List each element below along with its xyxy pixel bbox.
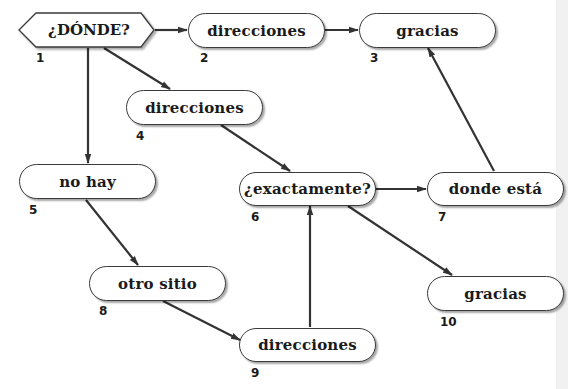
edge-8-9 [163, 301, 240, 340]
node-2-number: 2 [200, 51, 208, 65]
node-4-number: 4 [136, 129, 144, 143]
edge-1-4 [104, 48, 170, 89]
node-3: gracias [359, 13, 496, 48]
node-5-number: 5 [29, 203, 37, 217]
node-10: gracias [427, 276, 564, 311]
flowchart-diagram: ¿DÓNDE? 1 direcciones 2 gracias 3 direcc… [0, 0, 568, 389]
node-10-number: 10 [440, 315, 457, 329]
node-3-number: 3 [370, 51, 378, 65]
node-2: direcciones [188, 13, 325, 48]
node-1-label: ¿DÓNDE? [36, 13, 142, 47]
node-1-number: 1 [36, 51, 44, 65]
node-8: otro sitio [89, 266, 226, 301]
node-9: direcciones [239, 328, 376, 362]
node-9-number: 9 [251, 366, 259, 380]
node-6-number: 6 [251, 210, 259, 224]
node-4: direcciones [126, 90, 263, 125]
edge-6-10 [348, 206, 452, 275]
edge-7-3 [428, 48, 494, 171]
node-7: donde está [427, 172, 564, 206]
node-8-number: 8 [99, 304, 107, 318]
node-5: no hay [19, 164, 156, 199]
edge-4-6 [221, 125, 290, 171]
node-6: ¿exactamente? [239, 172, 376, 206]
node-7-number: 7 [438, 210, 446, 224]
edge-5-8 [86, 200, 138, 265]
